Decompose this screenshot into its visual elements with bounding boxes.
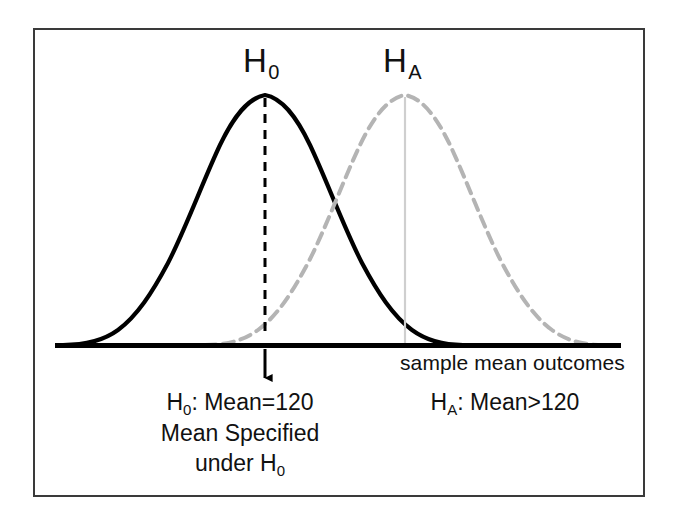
x-axis-caption: sample mean outcomes [400, 352, 625, 373]
null-hypothesis-curve-label-subscript: 0 [268, 61, 280, 83]
null-caption-line-3-subscript: 0 [277, 462, 285, 479]
null-caption-line-3: under H0 [110, 448, 370, 479]
alt-caption-line-1: HA: Mean>120 [380, 387, 630, 418]
null-caption-line-2-base: Mean Specified [161, 420, 320, 446]
null-hypothesis-curve-label-base: H [243, 42, 267, 79]
alternative-hypothesis-curve-label: HA [383, 44, 421, 77]
alt-caption-line-1-base: H [431, 389, 448, 415]
null-hypothesis-curve-label: H0 [243, 44, 279, 77]
null-caption-line-1-subscript: 0 [183, 401, 191, 418]
null-caption-line-1-base: H [166, 389, 183, 415]
null-distribution-curve [63, 95, 463, 345]
alternative-hypothesis-caption: HA: Mean>120 [380, 387, 630, 418]
alt-caption-line-1-subscript: A [447, 401, 457, 418]
null-caption-line-2: Mean Specified [110, 418, 370, 449]
null-caption-line-1-rest: : Mean=120 [191, 389, 313, 415]
alternative-hypothesis-curve-label-base: H [383, 42, 407, 79]
alternative-hypothesis-curve-label-subscript: A [408, 61, 422, 83]
null-caption-line-1: H0: Mean=120 [110, 387, 370, 418]
alt-caption-line-1-rest: : Mean>120 [457, 389, 579, 415]
hypothesis-test-figure: H0 HA sample mean outcomes H0: Mean=120 … [0, 0, 678, 527]
null-caption-line-3-base: under H [195, 450, 277, 476]
null-hypothesis-caption: H0: Mean=120 Mean Specified under H0 [110, 387, 370, 479]
